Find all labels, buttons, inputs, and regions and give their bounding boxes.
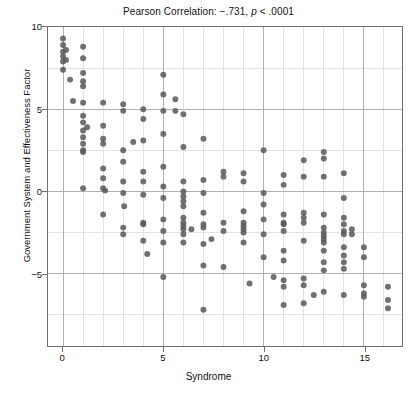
data-point [200, 225, 206, 231]
data-point [311, 292, 317, 298]
y-tickmark [42, 109, 47, 110]
data-point [80, 134, 86, 140]
data-point [208, 236, 214, 242]
data-point [80, 44, 86, 50]
data-point [321, 156, 327, 162]
data-point [144, 251, 150, 257]
data-point [221, 174, 227, 180]
data-point [321, 174, 327, 180]
data-point [80, 149, 86, 155]
data-point [261, 147, 267, 153]
data-point [301, 282, 307, 288]
data-point [80, 113, 86, 119]
data-point [261, 254, 267, 260]
data-point [281, 211, 287, 217]
data-point [80, 119, 86, 125]
data-point [180, 111, 186, 117]
scatter-plot-figure: Pearson Correlation: −.731, p < .0001 10… [0, 0, 417, 397]
data-point [241, 208, 247, 214]
data-point [200, 136, 206, 142]
data-point [120, 190, 126, 196]
data-point [180, 239, 186, 245]
data-point [361, 254, 367, 260]
data-point [160, 239, 166, 245]
data-point [120, 179, 126, 185]
data-point [200, 177, 206, 183]
data-point [271, 274, 277, 280]
data-point [160, 72, 166, 78]
data-point [321, 239, 327, 245]
data-point [301, 238, 307, 244]
data-point [281, 228, 287, 234]
data-point [180, 144, 186, 150]
data-point [200, 307, 206, 313]
data-point [301, 157, 307, 163]
data-point [60, 67, 66, 73]
data-point [180, 231, 186, 237]
data-point [281, 284, 287, 290]
data-point [200, 190, 206, 196]
data-point [321, 259, 327, 265]
data-point [261, 216, 267, 222]
data-point [200, 210, 206, 216]
chart-title-suffix: < .0001 [257, 6, 294, 17]
data-point [241, 239, 247, 245]
data-point [281, 172, 287, 178]
data-point [160, 184, 166, 190]
data-point [321, 289, 327, 295]
data-point [281, 258, 287, 264]
data-point [160, 274, 166, 280]
data-point [172, 108, 178, 114]
data-point [200, 241, 206, 247]
data-point [221, 228, 227, 234]
plot-area [47, 26, 403, 347]
data-point [281, 248, 287, 254]
data-point [63, 47, 69, 53]
data-point [341, 244, 347, 250]
data-point [341, 221, 347, 227]
data-point [221, 264, 227, 270]
x-axis-tick-labels: 051015 [47, 352, 403, 366]
y-axis-label: Government System and Effectiveness Fact… [21, 46, 32, 286]
data-point [160, 164, 166, 170]
data-point [261, 190, 267, 196]
data-point [140, 106, 146, 112]
data-point [100, 141, 106, 147]
data-point [321, 211, 327, 217]
data-point [140, 192, 146, 198]
data-point [281, 277, 287, 283]
data-point [120, 225, 126, 231]
data-point [140, 238, 146, 244]
data-point [140, 137, 146, 143]
data-point [80, 83, 86, 89]
data-point [80, 55, 86, 61]
data-point [341, 259, 347, 265]
data-point [341, 215, 347, 221]
data-point [67, 77, 73, 83]
data-point [361, 244, 367, 250]
data-point [247, 281, 253, 287]
data-point [180, 179, 186, 185]
data-point [341, 170, 347, 176]
data-point [361, 294, 367, 300]
data-point [321, 149, 327, 155]
data-point [140, 221, 146, 227]
data-point [349, 231, 355, 237]
x-tick-label: 5 [148, 352, 178, 363]
data-point [84, 124, 90, 130]
x-axis-label: Syndrome [0, 371, 417, 382]
data-point [160, 228, 166, 234]
data-point [100, 211, 106, 217]
data-point [100, 165, 106, 171]
data-point [102, 188, 108, 194]
data-point [188, 226, 194, 232]
y-tickmark [42, 191, 47, 192]
data-point [140, 116, 146, 122]
x-tick-label: 10 [249, 352, 279, 363]
y-tick-label: 10 [20, 21, 42, 32]
data-point [140, 169, 146, 175]
data-point [361, 282, 367, 288]
data-point [160, 131, 166, 137]
data-point [130, 139, 136, 145]
data-points-layer [48, 27, 402, 346]
